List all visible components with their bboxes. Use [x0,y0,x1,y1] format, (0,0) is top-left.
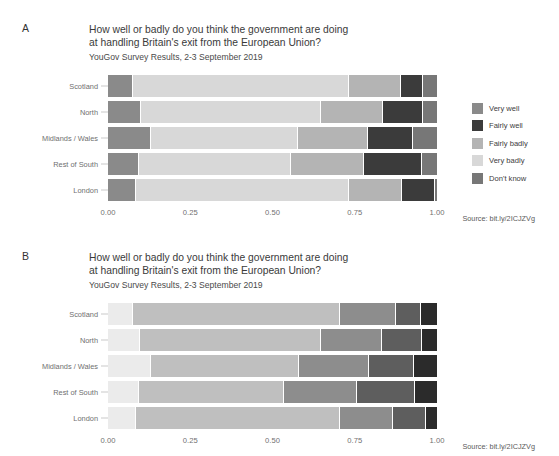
bar-row [108,127,437,149]
y-axis-ticks-b [0,303,108,432]
chart-title-line-1: How well or badly do you think the gover… [89,24,419,37]
bar-segment [363,153,421,175]
bar-row [108,153,437,175]
y-axis-tick [101,164,108,165]
legend-item[interactable]: Don't know [472,170,528,186]
panel-b: B How well or badly do you think the gov… [0,228,559,456]
x-axis-tick-label: 0.50 [265,436,280,445]
bar-segment [414,381,437,403]
bar-segment [381,329,421,351]
bar-segment [138,381,283,403]
bar-segment [132,303,339,325]
plot-area-a [108,75,437,204]
x-axis-tick-label: 0.75 [347,436,362,445]
x-axis-tick-label: 0.75 [347,208,362,217]
bar-segment [401,179,434,201]
bar-segment [132,75,348,97]
panel-letter-b: B [22,250,29,262]
y-axis-ticks-a [0,75,108,204]
bar-segment [367,127,412,149]
bar-segment [422,101,437,123]
legend-swatch-icon [472,103,483,114]
panel-letter-a: A [22,22,29,34]
chart-title-line-2: at handling Britain's exit from the Euro… [89,265,419,278]
bar-segment [135,407,339,429]
bar-segment [108,127,150,149]
bar-segment [420,303,437,325]
bar-segment [108,407,135,429]
x-axis-tick-label: 1.00 [430,436,445,445]
bar-segment [150,355,298,377]
chart-title-line-2: at handling Britain's exit from the Euro… [89,37,419,50]
bar-segment [382,101,422,123]
legend-item[interactable]: Very badly [472,153,528,169]
panel-b-titles: How well or badly do you think the gover… [89,252,419,291]
bar-segment [108,303,132,325]
bar-segment [108,101,140,123]
bar-segment [425,407,437,429]
chart-subtitle: YouGov Survey Results, 2-3 September 201… [89,51,419,63]
y-axis-tick [101,86,108,87]
bar-segment [108,179,135,201]
legend-swatch-icon [472,173,483,184]
x-axis-tick-label: 0.25 [183,208,198,217]
x-axis-b: 0.000.250.500.751.00 [108,436,437,456]
bar-segment [422,75,437,97]
legend-item[interactable]: Fairly badly [472,135,528,151]
bar-segment [283,381,356,403]
bar-row [108,101,437,123]
legend-item[interactable]: Very well [472,100,528,116]
y-axis-tick [101,314,108,315]
panel-a: A How well or badly do you think the gov… [0,0,559,228]
bar-rows-a [108,75,437,204]
legend-swatch-icon [472,138,483,149]
bar-segment [320,329,381,351]
bar-segment [135,179,348,201]
bar-segment [108,355,150,377]
chart-title-line-1: How well or badly do you think the gover… [89,252,419,265]
bar-row [108,303,437,325]
bar-segment [108,329,139,351]
bar-segment [421,153,437,175]
y-axis-tick [101,392,108,393]
y-axis-tick [101,190,108,191]
bar-segment [412,127,437,149]
bar-segment [368,355,413,377]
plot-area-b [108,303,437,432]
bar-segment [297,127,367,149]
legend-swatch-icon [472,120,483,131]
bar-segment [395,303,420,325]
bar-segment [392,407,425,429]
figure-root: A How well or badly do you think the gov… [0,0,559,456]
bar-segment [434,179,437,201]
bar-segment [339,407,392,429]
bar-segment [290,153,363,175]
panel-a-titles: How well or badly do you think the gover… [89,24,419,63]
bar-rows-b [108,303,437,432]
legend-label: Don't know [489,174,526,183]
bar-segment [150,127,297,149]
legend-swatch-icon [472,155,483,166]
bar-segment [108,153,138,175]
bar-segment [413,355,437,377]
source-note-b: Source: bit.ly/2ICJZVg [462,442,535,451]
bar-segment [140,101,320,123]
y-axis-tick [101,138,108,139]
x-axis-tick-label: 0.00 [101,436,116,445]
bar-segment [108,381,138,403]
bar-segment [298,355,368,377]
chart-subtitle: YouGov Survey Results, 2-3 September 201… [89,279,419,291]
y-axis-tick [101,418,108,419]
legend-item[interactable]: Fairly well [472,118,528,134]
bar-segment [339,303,395,325]
bar-segment [139,329,320,351]
bar-row [108,329,437,351]
bar-segment [320,101,382,123]
x-axis-a: 0.000.250.500.751.00 [108,208,437,228]
bar-segment [400,75,422,97]
y-axis-tick [101,366,108,367]
bar-row [108,75,437,97]
bar-row [108,179,437,201]
x-axis-tick-label: 0.25 [183,436,198,445]
source-note-a: Source: bit.ly/2ICJZVg [462,214,535,223]
